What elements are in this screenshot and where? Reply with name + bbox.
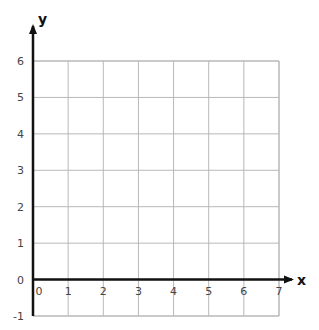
grid-lines (33, 61, 279, 316)
y-tick-label: -1 (13, 310, 24, 323)
coordinate-grid: yx-1012345601234567 (0, 0, 319, 330)
x-tick-label: 6 (240, 285, 247, 298)
y-tick-label: 4 (17, 128, 24, 141)
y-tick-label: 1 (17, 237, 24, 250)
tick-labels: yx-1012345601234567 (13, 11, 306, 323)
x-tick-label: 7 (276, 285, 283, 298)
y-tick-label: 5 (17, 91, 24, 104)
y-tick-label: 3 (17, 164, 24, 177)
y-axis-label: y (38, 11, 47, 27)
x-tick-label: 5 (205, 285, 212, 298)
y-tick-label: 0 (17, 274, 24, 287)
x-tick-label: 2 (100, 285, 107, 298)
y-tick-label: 2 (17, 201, 24, 214)
x-tick-label: 1 (65, 285, 72, 298)
y-tick-label: 6 (17, 55, 24, 68)
axes (33, 26, 292, 316)
x-axis-label: x (297, 272, 306, 288)
x-tick-label: 4 (170, 285, 177, 298)
x-tick-label: 0 (36, 285, 43, 298)
x-tick-label: 3 (135, 285, 142, 298)
